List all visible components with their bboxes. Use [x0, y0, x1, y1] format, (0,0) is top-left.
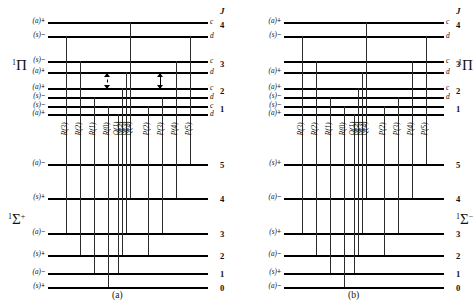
j-value-upper: 4 — [456, 21, 460, 30]
parity-label-upper: (a)+ — [238, 84, 281, 91]
energy-level-lower — [48, 273, 208, 275]
lambda-doublet-label: c — [210, 57, 213, 64]
parity-label-lower: (a)− — [238, 283, 281, 290]
transition-line — [80, 61, 81, 255]
branch-label: R(1) — [90, 122, 97, 135]
lambda-doublet-label: c — [446, 84, 449, 91]
energy-level-upper — [48, 97, 208, 99]
parity-label-upper: (a)+ — [2, 18, 45, 25]
transition-line — [354, 114, 355, 273]
arrow-head-down — [157, 85, 163, 89]
branch-label: Q(4) — [362, 122, 369, 136]
lower-term-symbol: 1Σ+ — [8, 212, 25, 227]
energy-level-lower — [284, 255, 444, 257]
energy-level-upper — [48, 72, 208, 74]
branch-label: P(5) — [186, 122, 193, 135]
branch-label: R(0) — [340, 122, 347, 135]
lambda-doublet-label: c — [446, 57, 449, 64]
transition-line — [126, 72, 127, 233]
panel-a: J(a)+c4(s)−d(s)−c3(a)+d(a)+c2(s)−d(s)−c1… — [0, 0, 236, 303]
parity-label-upper: (a)+ — [2, 84, 45, 91]
branch-label: R(0) — [104, 122, 111, 135]
transition-line — [122, 88, 123, 255]
parity-label-upper: (a)+ — [238, 68, 281, 75]
parity-label-lower: (s)+ — [2, 194, 45, 201]
transition-line — [190, 36, 191, 164]
branch-label: P(3) — [158, 122, 165, 135]
parity-label-upper: (s)− — [2, 32, 45, 39]
transition-line — [366, 22, 367, 198]
j-value-upper: 2 — [456, 87, 460, 96]
transition-line — [118, 114, 119, 273]
branch-label: P(5) — [422, 122, 429, 135]
branch-label: R(2) — [76, 122, 83, 135]
arrow-head-down — [104, 85, 110, 89]
branch-label: R(1) — [326, 122, 333, 135]
lambda-doublet-label: c — [210, 18, 213, 25]
transition-line — [362, 72, 363, 233]
energy-level-upper — [284, 114, 444, 116]
lambda-doublet-label: d — [210, 93, 214, 100]
lambda-doublet-label: d — [446, 32, 450, 39]
energy-level-upper — [48, 36, 208, 38]
energy-level-upper — [48, 22, 208, 24]
energy-level-upper — [284, 88, 444, 90]
lambda-doublet-label: c — [210, 84, 213, 91]
parity-label-lower: (s)+ — [238, 229, 281, 236]
parity-label-lower: (s)+ — [2, 251, 45, 258]
lambda-doublet-label: c — [446, 18, 449, 25]
parity-label-lower: (a)− — [2, 229, 45, 236]
transition-line — [426, 36, 427, 164]
j-value-lower: 5 — [456, 161, 460, 170]
energy-level-upper — [284, 97, 444, 99]
energy-level-lower — [284, 287, 444, 289]
energy-level-lower — [48, 287, 208, 289]
energy-level-upper — [48, 61, 208, 63]
j-value-upper: 4 — [220, 21, 224, 30]
arrow-head-up — [104, 73, 110, 77]
parity-label-upper: (a)+ — [238, 110, 281, 117]
parity-label-lower: (a)− — [238, 194, 281, 201]
lambda-doublet-label: d — [210, 68, 214, 75]
energy-level-upper — [48, 106, 208, 108]
branch-label: R(3) — [62, 122, 69, 135]
energy-level-upper — [48, 114, 208, 116]
j-value-upper: 3 — [220, 60, 224, 69]
energy-level-lower — [284, 273, 444, 275]
j-value-lower: 3 — [456, 230, 460, 239]
branch-label: R(2) — [312, 122, 319, 135]
parity-label-upper: (a)+ — [2, 110, 45, 117]
branch-label: R(3) — [298, 122, 305, 135]
parity-label-upper: (s)− — [2, 93, 45, 100]
j-value-lower: 4 — [456, 195, 460, 204]
j-axis-header: J — [220, 6, 225, 16]
branch-label: Q(4) — [126, 122, 133, 136]
j-value-lower: 5 — [220, 161, 224, 170]
transition-line — [130, 22, 131, 198]
arrow-head-up — [157, 73, 163, 77]
panel-caption: (b) — [348, 290, 359, 300]
energy-level-lower — [284, 233, 444, 235]
parity-label-upper: (a)+ — [238, 18, 281, 25]
j-value-upper: 1 — [456, 105, 460, 114]
upper-term-symbol: 1Π — [12, 58, 27, 73]
energy-level-lower — [48, 198, 208, 200]
lambda-doublet-label: d — [446, 93, 450, 100]
lambda-doublet-label: d — [210, 110, 214, 117]
lambda-doublet-label: d — [210, 32, 214, 39]
energy-level-upper — [284, 106, 444, 108]
branch-label: P(4) — [172, 122, 179, 135]
energy-level-upper — [48, 88, 208, 90]
j-value-upper: 1 — [220, 105, 224, 114]
branch-label: P(2) — [380, 122, 387, 135]
energy-level-lower — [48, 233, 208, 235]
parity-label-upper: (s)− — [238, 32, 281, 39]
parity-label-lower: (s)+ — [238, 160, 281, 167]
panel-caption: (a) — [112, 290, 123, 300]
energy-level-lower — [48, 164, 208, 166]
energy-level-lower — [48, 255, 208, 257]
upper-term-symbol: 1Π — [458, 58, 473, 73]
energy-level-upper — [284, 22, 444, 24]
parity-label-upper: (s)− — [238, 93, 281, 100]
parity-label-lower: (a)− — [238, 251, 281, 258]
